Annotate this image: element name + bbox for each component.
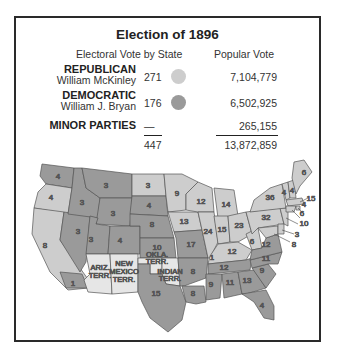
svg-text:4: 4 — [282, 188, 287, 197]
svg-text:13: 13 — [180, 217, 189, 226]
svg-text:24: 24 — [204, 227, 213, 236]
svg-text:8: 8 — [43, 241, 48, 250]
svg-text:3: 3 — [89, 235, 94, 244]
svg-text:3: 3 — [111, 209, 116, 218]
svg-text:32: 32 — [262, 213, 271, 222]
svg-text:36: 36 — [266, 193, 275, 202]
svg-text:4: 4 — [118, 236, 123, 245]
state-me — [292, 160, 312, 194]
svg-text:6: 6 — [250, 237, 255, 246]
svg-text:15: 15 — [152, 289, 161, 298]
svg-text:4: 4 — [302, 200, 307, 209]
svg-text:6: 6 — [302, 168, 307, 177]
svg-text:12: 12 — [220, 263, 229, 272]
svg-text:8: 8 — [191, 267, 196, 276]
svg-text:4: 4 — [290, 186, 295, 195]
svg-text:14: 14 — [222, 200, 231, 209]
state-co — [108, 226, 140, 254]
svg-text:9: 9 — [175, 189, 180, 198]
svg-text:3: 3 — [80, 198, 85, 207]
svg-text:9: 9 — [209, 280, 214, 289]
svg-text:17: 17 — [187, 240, 196, 249]
state-fl — [242, 290, 274, 320]
svg-text:10: 10 — [300, 219, 309, 228]
svg-text:12: 12 — [197, 197, 206, 206]
svg-text:TERR.: TERR. — [89, 271, 112, 280]
svg-text:3: 3 — [146, 181, 151, 190]
svg-text:12: 12 — [262, 240, 271, 249]
svg-text:4: 4 — [49, 193, 54, 202]
svg-text:6: 6 — [300, 209, 305, 218]
svg-text:4: 4 — [260, 301, 265, 310]
svg-text:3: 3 — [295, 230, 300, 239]
svg-text:TERR.: TERR. — [159, 274, 182, 283]
state-de — [278, 224, 284, 234]
svg-text:1: 1 — [210, 253, 215, 262]
svg-text:13: 13 — [243, 276, 252, 285]
election-map-frame: Election of 1896 Electoral Vote by State… — [14, 16, 321, 342]
svg-text:23: 23 — [235, 221, 244, 230]
us-electoral-map: 4 4 8 1 3 3 3 3 3 4 3 4 8 10 9 13 17 12 … — [16, 18, 319, 340]
svg-text:4: 4 — [147, 201, 152, 210]
svg-text:8: 8 — [150, 220, 155, 229]
svg-text:8: 8 — [191, 289, 196, 298]
svg-text:TERR.: TERR. — [113, 275, 136, 284]
svg-text:4: 4 — [56, 172, 61, 181]
svg-text:15: 15 — [218, 225, 227, 234]
svg-text:TERR.: TERR. — [146, 257, 169, 266]
svg-text:1: 1 — [71, 279, 76, 288]
state-ct — [286, 206, 296, 212]
svg-text:8: 8 — [292, 240, 297, 249]
svg-text:11: 11 — [262, 254, 271, 263]
svg-text:3: 3 — [76, 227, 81, 236]
svg-text:11: 11 — [226, 278, 235, 287]
svg-text:12: 12 — [228, 247, 237, 256]
svg-text:3: 3 — [104, 181, 109, 190]
svg-text:15: 15 — [307, 194, 316, 203]
svg-text:9: 9 — [260, 266, 265, 275]
